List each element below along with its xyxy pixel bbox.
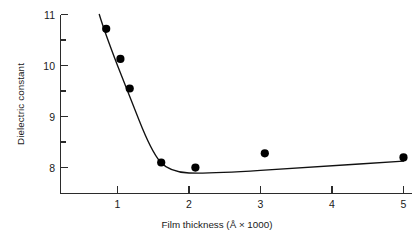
x-tick-label-3: 3 (258, 198, 264, 210)
y-tick-label-8: 8 (49, 162, 55, 174)
data-point (157, 158, 165, 166)
data-point (116, 55, 124, 63)
x-axis-title: Film thickness (Å × 1000) (162, 219, 273, 230)
data-point (261, 149, 269, 157)
y-tick-label-11: 11 (44, 9, 55, 21)
x-tick-label-4: 4 (329, 198, 335, 210)
y-axis-title: Dielectric constant (15, 63, 26, 145)
y-tick-label-10: 10 (43, 60, 55, 72)
chart-background (0, 0, 419, 242)
data-point (102, 25, 110, 33)
data-point (399, 153, 407, 161)
chart-figure: 11 10 9 8 1 2 3 4 5 Film thickness (Å × … (0, 0, 419, 242)
x-tick-label-5: 5 (401, 198, 407, 210)
y-tick-label-9: 9 (49, 111, 55, 123)
x-tick-label-1: 1 (115, 198, 121, 210)
x-tick-label-2: 2 (186, 198, 192, 210)
data-point (126, 84, 134, 92)
data-point (191, 164, 199, 172)
chart-svg: 11 10 9 8 1 2 3 4 5 Film thickness (Å × … (0, 0, 419, 242)
